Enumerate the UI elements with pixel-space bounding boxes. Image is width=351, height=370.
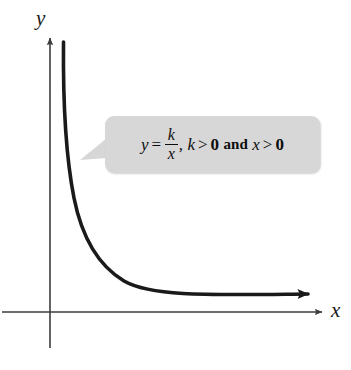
fraction-denominator: x xyxy=(166,146,177,162)
equation-fraction: k x xyxy=(165,127,178,162)
equation-equals-sign: = xyxy=(149,135,164,155)
equation-comma: , xyxy=(179,135,187,155)
condition-2-operator: > xyxy=(260,135,275,155)
condition-1-variable: k xyxy=(187,135,196,155)
callout-tail-icon xyxy=(80,138,107,160)
condition-2-variable: x xyxy=(252,135,261,155)
condition-1-operator: > xyxy=(196,135,211,155)
fraction-numerator: k xyxy=(166,127,177,143)
condition-1-value: 0 xyxy=(210,135,220,155)
x-axis-label: x xyxy=(331,300,340,321)
condition-2-value: 0 xyxy=(275,135,285,155)
equation-text: y = k x , k > 0 and x > 0 xyxy=(105,116,320,173)
plot-canvas xyxy=(0,0,351,370)
conjunction-and: and xyxy=(220,136,252,153)
hyperbola-figure: y x y = k x , k > 0 and x > 0 xyxy=(0,0,351,370)
equation-lhs: y xyxy=(141,135,150,155)
equation-callout: y = k x , k > 0 and x > 0 xyxy=(105,116,320,173)
y-axis-label: y xyxy=(36,8,45,29)
